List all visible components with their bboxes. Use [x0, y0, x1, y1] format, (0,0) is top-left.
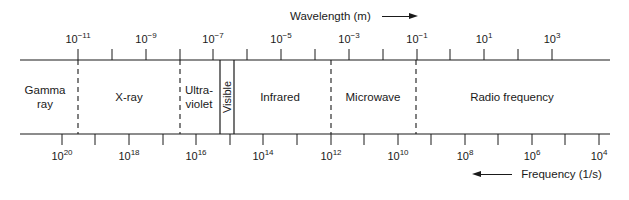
- frequency-axis-title: Frequency (1/s): [472, 168, 602, 180]
- region-microwave-label: Microwave: [346, 90, 401, 104]
- frequency-tick-label: 1016: [185, 150, 206, 162]
- wavelength-tick-label: 10−1: [406, 33, 427, 45]
- region-infrared-label: Infrared: [260, 90, 300, 104]
- frequency-tick-label: 1020: [51, 150, 72, 162]
- region-ultraviolet-label: Ultra-violet: [185, 83, 213, 111]
- region-x-ray-label: X-ray: [115, 90, 142, 104]
- right-arrow-icon: [382, 12, 418, 22]
- wavelength-tick-label: 10−3: [338, 33, 359, 45]
- frequency-tick-label: 108: [457, 150, 474, 162]
- frequency-tick-label: 1018: [118, 150, 139, 162]
- region-radio-frequency-label: Radio frequency: [470, 90, 554, 104]
- region-gamma-ray-label: Gammaray: [25, 83, 66, 111]
- wavelength-tick-label: 10−5: [270, 33, 291, 45]
- wavelength-axis-title: Wavelength (m): [290, 10, 418, 22]
- region-visible-label: Visible: [221, 81, 233, 113]
- wavelength-tick-label: 103: [544, 33, 561, 45]
- frequency-tick-label: 106: [524, 150, 541, 162]
- left-arrow-icon: [472, 170, 512, 180]
- wavelength-tick-label: 101: [476, 33, 493, 45]
- wavelength-tick-label: 10−9: [135, 33, 156, 45]
- electromagnetic-spectrum-diagram: Wavelength (m) Frequency (1/s) 10−1110−9…: [0, 0, 629, 200]
- wavelength-tick-label: 10−7: [202, 33, 223, 45]
- frequency-tick-label: 1014: [252, 150, 273, 162]
- frequency-tick-label: 1012: [320, 150, 341, 162]
- frequency-tick-label: 1010: [387, 150, 408, 162]
- wavelength-tick-label: 10−11: [65, 33, 90, 45]
- frequency-tick-label: 104: [591, 150, 608, 162]
